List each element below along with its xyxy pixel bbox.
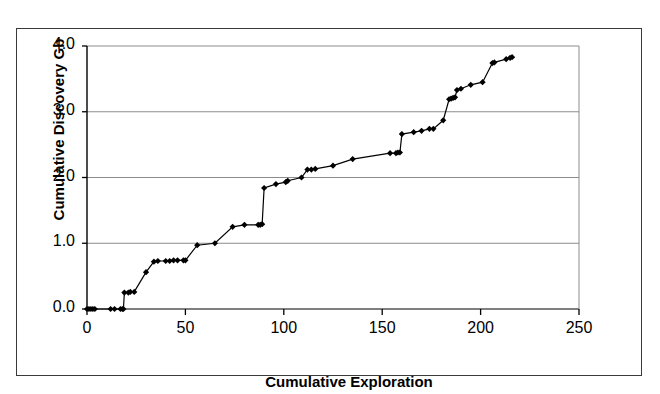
data-point-marker <box>350 156 356 162</box>
data-point-marker <box>468 82 474 88</box>
y-tick-label: 0.0 <box>35 298 75 316</box>
data-point-marker <box>261 185 267 191</box>
data-point-marker <box>131 289 137 295</box>
x-tick-label: 0 <box>65 319 109 337</box>
series-markers-cumulative-discovery <box>84 54 515 312</box>
x-tick-label: 150 <box>360 319 404 337</box>
tick-marks <box>82 46 579 315</box>
data-point-marker <box>399 131 405 137</box>
data-point-marker <box>111 306 117 312</box>
plot-area <box>17 29 641 375</box>
data-point-marker <box>330 163 336 169</box>
data-point-marker <box>411 129 417 135</box>
x-tick-label: 200 <box>459 319 503 337</box>
data-point-marker <box>312 166 318 172</box>
data-point-marker <box>241 222 247 228</box>
data-point-marker <box>418 128 424 134</box>
chart-figure: 0.01.02.03.04.0 050100150200250 Cumulati… <box>0 0 660 394</box>
data-point-marker <box>479 79 485 85</box>
y-axis-title: Cumulative Discovery Gb <box>50 15 67 245</box>
chart-frame: 0.01.02.03.04.0 050100150200250 Cumulati… <box>16 28 642 376</box>
x-axis-title: Cumulative Exploration <box>103 373 595 390</box>
data-point-marker <box>387 150 393 156</box>
x-tick-label: 100 <box>262 319 306 337</box>
data-point-marker <box>273 181 279 187</box>
series-line-cumulative-discovery <box>87 57 512 309</box>
data-point-marker <box>155 258 161 264</box>
x-tick-label: 50 <box>163 319 207 337</box>
gridlines <box>87 46 579 309</box>
data-point-marker <box>174 257 180 263</box>
x-tick-label: 250 <box>557 319 601 337</box>
